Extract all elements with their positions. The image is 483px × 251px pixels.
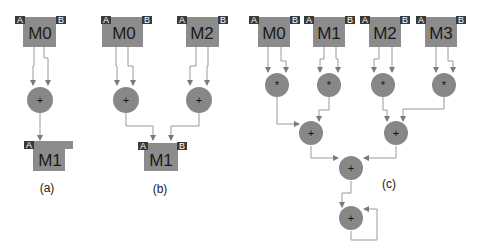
wire: [190, 47, 196, 85]
adder-node[interactable]: +: [299, 121, 323, 145]
port-a-label: A: [17, 15, 23, 25]
caption-b: (b): [153, 182, 168, 196]
caption-c: (c): [382, 177, 396, 191]
port-a-label: A: [179, 15, 185, 25]
module-label: M2: [190, 24, 214, 43]
port-a-label: A: [306, 15, 312, 25]
operator-symbol: +: [348, 162, 354, 174]
module-m3[interactable]: A B M3: [416, 15, 466, 47]
module-m0[interactable]: A B M0: [101, 15, 152, 47]
port-b-label: B: [220, 15, 226, 25]
port-a-label: A: [362, 15, 368, 25]
wire: [126, 113, 153, 140]
wire: [374, 47, 379, 72]
module-label: M0: [28, 24, 52, 43]
module-label: M0: [112, 24, 136, 43]
module-label: M0: [262, 24, 286, 43]
operator-symbol: +: [308, 127, 314, 139]
operator-symbol: +: [393, 127, 399, 139]
module-m1[interactable]: A B M1: [304, 15, 355, 47]
operator-symbol: +: [196, 94, 202, 106]
panel-c: A B M0 A B M1 A B M2 A B M3: [249, 15, 466, 240]
adder-node[interactable]: +: [339, 156, 363, 180]
caption-a: (a): [40, 181, 55, 195]
module-m2[interactable]: A B M2: [360, 15, 410, 47]
wire: [44, 47, 48, 85]
wire: [342, 181, 351, 207]
module-m1[interactable]: A B M1: [138, 141, 187, 171]
wire: [403, 97, 444, 121]
module-label: M2: [373, 24, 397, 43]
wire: [336, 47, 338, 72]
accumulator-node[interactable]: +: [339, 206, 363, 230]
port-b-label: B: [292, 15, 298, 25]
port-b-label: B: [144, 15, 150, 25]
wire: [383, 97, 387, 121]
wire: [311, 146, 338, 158]
adder-node[interactable]: +: [27, 87, 53, 113]
module-m1[interactable]: A M1: [24, 140, 73, 171]
multiplier-node[interactable]: *: [371, 73, 395, 97]
port-a-label: A: [418, 15, 424, 25]
port-b-label: B: [58, 15, 64, 25]
port-b-label: B: [458, 15, 464, 25]
adder-node[interactable]: +: [186, 87, 212, 113]
panel-b: A B M0 A B M2 + + A B M1: [101, 15, 228, 196]
module-label: M1: [149, 151, 173, 170]
module-label: M1: [317, 24, 341, 43]
port-a-label: A: [251, 15, 257, 25]
multiplier-node[interactable]: *: [432, 73, 456, 97]
port-a-label: A: [26, 140, 32, 150]
adder-node[interactable]: +: [113, 87, 139, 113]
wire: [281, 47, 286, 72]
operator-symbol: *: [275, 79, 280, 91]
module-m0[interactable]: A B M0: [249, 15, 300, 47]
multiplier-node[interactable]: *: [317, 73, 341, 97]
wire: [116, 47, 117, 85]
operator-symbol: *: [327, 79, 332, 91]
operator-symbol: *: [442, 79, 447, 91]
wire: [277, 97, 299, 124]
port-b-label: B: [347, 15, 353, 25]
multiplier-node[interactable]: *: [265, 73, 289, 97]
panel-a: A B M0 + A M1 (a): [15, 15, 73, 195]
port-a-label: A: [103, 15, 109, 25]
module-m2[interactable]: A B M2: [177, 15, 228, 47]
dataflow-diagram: A B M0 + A M1 (a): [0, 0, 483, 251]
module-m0[interactable]: A B M0: [15, 15, 66, 47]
port-b-label: B: [402, 15, 408, 25]
wire: [128, 47, 133, 85]
wire: [207, 47, 208, 85]
wire: [171, 113, 199, 140]
operator-symbol: +: [37, 94, 43, 106]
operator-symbol: +: [123, 94, 129, 106]
adder-node[interactable]: +: [384, 121, 408, 145]
wire: [33, 47, 34, 85]
module-label: M1: [38, 151, 62, 170]
port-b-label: B: [179, 141, 185, 151]
module-label: M3: [429, 24, 453, 43]
operator-symbol: *: [381, 79, 386, 91]
wire: [448, 47, 453, 72]
wire: [320, 47, 324, 72]
port-a-label: A: [140, 141, 146, 151]
wire: [364, 146, 396, 158]
operator-symbol: +: [348, 212, 354, 224]
wire: [319, 97, 329, 121]
